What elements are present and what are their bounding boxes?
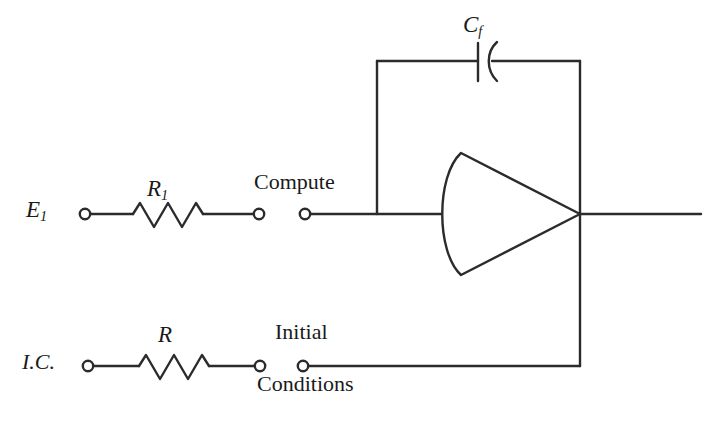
label-ic-resistor: R: [158, 322, 172, 348]
operational-amplifier-body: [442, 153, 580, 275]
schematic-drawing: [0, 0, 713, 425]
label-input-resistor: R1: [147, 176, 168, 204]
label-feedback-capacitor: Cf: [463, 12, 482, 40]
label-feedback-capacitor-text: C: [463, 12, 478, 37]
input-source-terminal-circle: [80, 209, 90, 219]
circuit-diagram-canvas: E1 R1 Cf R I.C. Compute Initial Conditio…: [0, 0, 713, 425]
label-input-resistor-subscript: 1: [161, 187, 168, 203]
label-compute-switch: Compute: [254, 169, 335, 195]
label-input-source-text: E: [26, 197, 40, 222]
input-resistor-zigzag: [133, 203, 203, 227]
label-initial-switch-line1: Initial: [275, 319, 328, 345]
label-input-source: E1: [26, 197, 47, 225]
label-initial-switch-line2: Conditions: [257, 371, 354, 397]
ic-source-terminal-circle: [83, 361, 93, 371]
initial-conditions-switch-right-contact[interactable]: [298, 361, 308, 371]
ic-resistor-zigzag: [139, 355, 209, 379]
label-input-source-subscript: 1: [40, 208, 47, 224]
initial-conditions-switch-left-contact[interactable]: [255, 361, 265, 371]
label-input-resistor-text: R: [147, 176, 161, 201]
label-ic-source: I.C.: [22, 349, 55, 375]
label-feedback-capacitor-subscript: f: [478, 23, 482, 39]
compute-switch-left-contact[interactable]: [254, 209, 264, 219]
compute-switch-right-contact[interactable]: [300, 209, 310, 219]
